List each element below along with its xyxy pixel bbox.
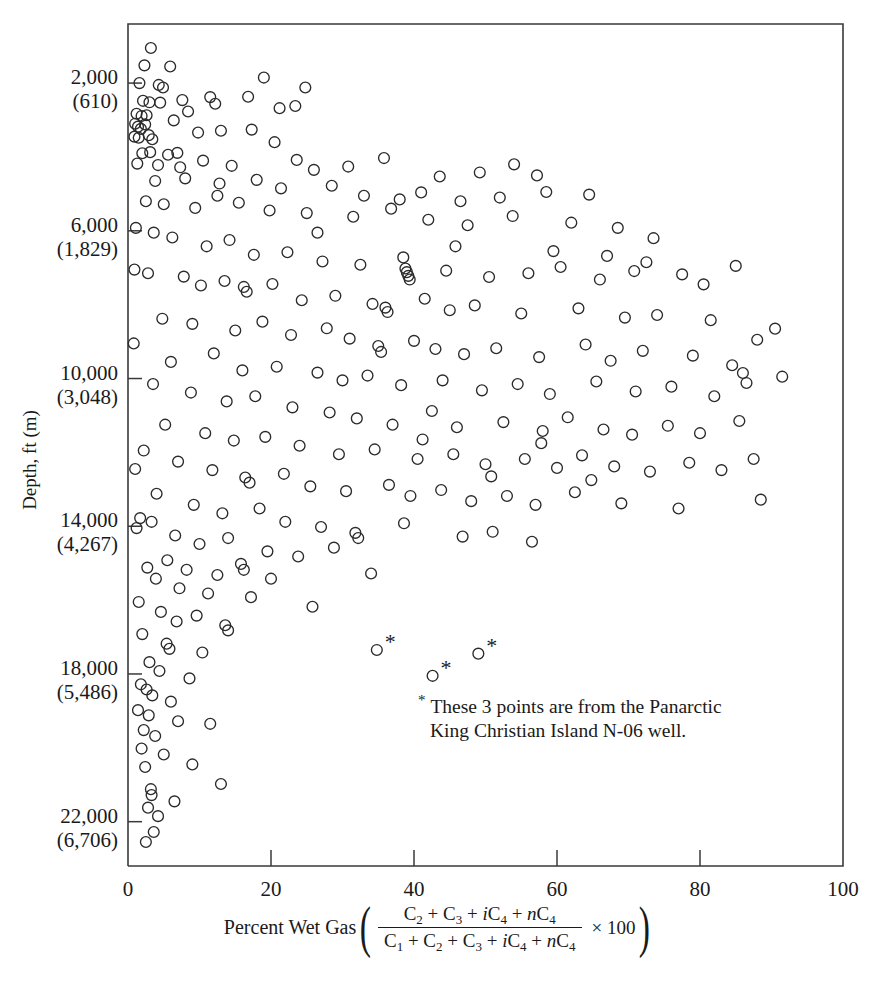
asterisk-symbol: * xyxy=(418,692,426,708)
data-point xyxy=(224,235,235,246)
data-point xyxy=(177,95,188,106)
data-point xyxy=(294,440,305,451)
data-point xyxy=(157,313,168,324)
y-tick-label-ft-6000: 6,000 xyxy=(71,213,118,237)
scatter-plot-figure: 2,000(610)6,000(1,829)10,000(3,048)14,00… xyxy=(0,0,878,990)
data-point xyxy=(337,375,348,386)
data-point xyxy=(140,196,151,207)
data-point xyxy=(145,147,156,158)
data-point xyxy=(486,471,497,482)
data-point xyxy=(173,716,184,727)
data-point xyxy=(230,325,241,336)
data-point xyxy=(191,610,202,621)
starred-points-group: *** xyxy=(371,629,497,681)
data-point xyxy=(271,361,282,372)
data-point xyxy=(452,422,463,433)
data-point xyxy=(367,299,378,310)
data-point xyxy=(251,174,262,185)
data-point xyxy=(246,592,257,603)
data-point xyxy=(309,164,320,175)
data-point xyxy=(351,413,362,424)
data-point xyxy=(584,189,595,200)
data-point xyxy=(258,72,269,83)
data-point xyxy=(317,256,328,267)
data-point xyxy=(246,124,257,135)
data-point xyxy=(573,303,584,314)
data-point xyxy=(178,271,189,282)
data-point xyxy=(616,498,627,509)
data-point xyxy=(777,371,788,382)
data-point xyxy=(250,391,261,402)
data-point xyxy=(169,796,180,807)
data-point xyxy=(491,343,502,354)
y-tick-label-m-10000: (3,048) xyxy=(57,385,118,409)
y-tick-label-m-2000: (610) xyxy=(73,89,119,113)
data-point xyxy=(595,274,606,285)
data-point xyxy=(677,269,688,280)
data-point xyxy=(187,318,198,329)
data-point xyxy=(321,323,332,334)
data-point xyxy=(436,485,447,496)
data-point xyxy=(462,220,473,231)
data-point xyxy=(190,203,201,214)
data-point xyxy=(734,416,745,427)
data-point xyxy=(598,424,609,435)
data-point xyxy=(423,214,434,225)
data-point xyxy=(673,503,684,514)
data-point xyxy=(569,487,580,498)
data-point xyxy=(166,696,177,707)
data-point xyxy=(197,647,208,658)
data-point xyxy=(290,101,301,112)
data-point xyxy=(212,570,223,581)
data-point xyxy=(278,468,289,479)
starred-data-point xyxy=(427,670,438,681)
data-point xyxy=(466,496,477,507)
data-point xyxy=(143,802,154,813)
data-point xyxy=(287,402,298,413)
data-point xyxy=(602,251,613,262)
data-point xyxy=(516,308,527,319)
data-point xyxy=(405,491,416,502)
data-point xyxy=(312,367,323,378)
y-axis-title: Depth, ft (m) xyxy=(19,410,41,510)
data-point xyxy=(291,155,302,166)
data-point xyxy=(437,375,448,386)
x-axis-title: Percent Wet Gas ( C2 + C3 + iC4 + nC4 C1… xyxy=(0,903,878,952)
y-tick-label-ft-18000: 18,000 xyxy=(60,656,118,680)
data-point xyxy=(748,454,759,465)
data-point xyxy=(752,334,763,345)
data-point xyxy=(359,190,370,201)
y-tick-label-m-22000: (6,706) xyxy=(57,828,118,852)
data-point xyxy=(417,434,428,445)
data-point xyxy=(494,192,505,203)
data-point xyxy=(186,387,197,398)
data-point xyxy=(450,241,461,252)
asterisk-marker: * xyxy=(486,633,497,658)
data-point xyxy=(343,161,354,172)
data-point xyxy=(219,276,230,287)
data-point xyxy=(158,199,169,210)
data-point xyxy=(146,516,157,527)
data-point xyxy=(662,420,673,431)
data-point xyxy=(444,305,455,316)
data-point xyxy=(586,475,597,486)
data-point xyxy=(487,526,498,537)
data-point xyxy=(188,499,199,510)
data-point xyxy=(216,125,227,136)
data-point xyxy=(537,426,548,437)
data-point xyxy=(609,461,620,472)
data-point xyxy=(312,227,323,238)
x-tick-label-20: 20 xyxy=(261,877,282,901)
data-point xyxy=(150,176,161,187)
starred-data-point xyxy=(371,645,382,656)
data-point xyxy=(412,454,423,465)
footnote-text-1: These 3 points are from the Panarctic xyxy=(430,696,721,717)
data-point xyxy=(205,718,216,729)
data-point xyxy=(469,300,480,311)
data-point xyxy=(562,412,573,423)
y-axis-ticks: 2,000(610)6,000(1,829)10,000(3,048)14,00… xyxy=(57,65,142,852)
data-point xyxy=(305,481,316,492)
data-point xyxy=(184,673,195,684)
data-point xyxy=(129,264,140,275)
data-point xyxy=(326,180,337,191)
